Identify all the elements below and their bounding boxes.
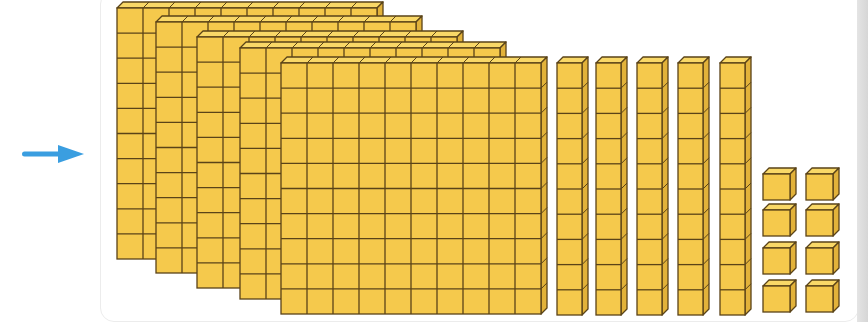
unit-cubes — [763, 168, 839, 312]
hundreds-flats — [117, 2, 547, 314]
base-ten-blocks — [0, 0, 868, 322]
hundred-flat — [281, 57, 547, 314]
unit-cube — [806, 242, 839, 274]
unit-cube — [763, 242, 796, 274]
tens-rods — [557, 57, 751, 315]
unit-cube — [763, 204, 796, 236]
unit-cube — [806, 280, 839, 312]
unit-cube — [763, 280, 796, 312]
unit-cube — [806, 168, 839, 200]
ten-rod — [720, 57, 751, 315]
ten-rod — [637, 57, 668, 315]
ten-rod — [596, 57, 627, 315]
unit-cube — [763, 168, 796, 200]
unit-cube — [806, 204, 839, 236]
ten-rod — [557, 57, 588, 315]
ten-rod — [678, 57, 709, 315]
